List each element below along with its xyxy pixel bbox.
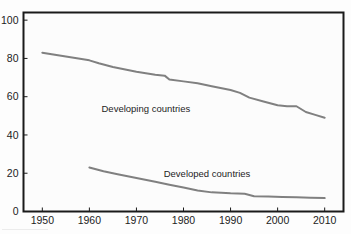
figure-canvas: 0204060801001950196019701980199020002010… [0,0,351,234]
x-axis-tick-label: 1950 [31,214,55,226]
footer-rule [2,229,48,230]
y-axis-tick-label: 80 [7,52,19,64]
series-annotation-0: Developing countries [101,103,190,114]
x-axis-tick-label: 2000 [266,214,290,226]
x-axis-tick-label: 1990 [219,214,243,226]
y-axis-tick-label: 100 [1,14,19,26]
x-axis-tick-label: 2010 [313,214,337,226]
series-annotation-1: Developed countries [164,168,251,179]
y-axis-tick-label: 40 [7,129,19,141]
y-axis-tick-label: 0 [13,205,19,217]
y-axis-tick-label: 60 [7,90,19,102]
y-axis-tick-label: 20 [7,167,19,179]
x-axis-tick-label: 1970 [125,214,149,226]
line-chart: 0204060801001950196019701980199020002010… [0,0,351,234]
x-axis-tick-label: 1960 [78,214,102,226]
x-axis-tick-label: 1980 [172,214,196,226]
